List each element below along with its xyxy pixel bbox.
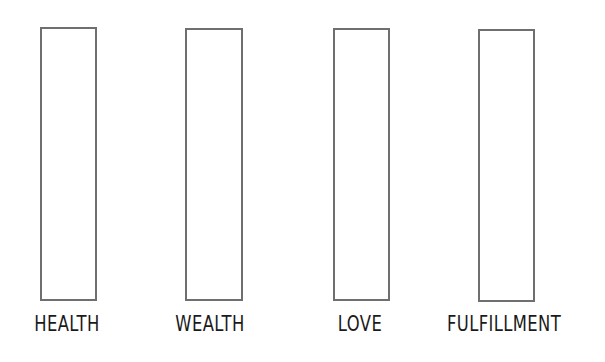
label-health: HEALTH	[0, 311, 145, 337]
bar-love	[333, 28, 390, 301]
label-wealth: WEALTH	[132, 311, 288, 337]
label-fulfillment: FULFILLMENT	[426, 311, 582, 337]
label-love: LOVE	[282, 311, 438, 337]
bar-fulfillment	[478, 29, 535, 302]
bar-wealth	[185, 28, 243, 301]
bar-health	[40, 27, 97, 301]
